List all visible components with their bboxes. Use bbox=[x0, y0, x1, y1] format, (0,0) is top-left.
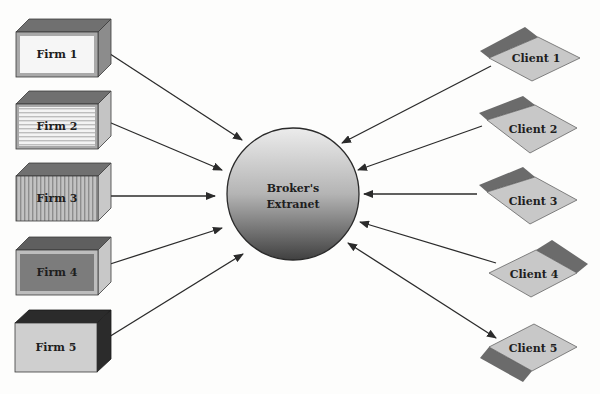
firm-3-label: Firm 3 bbox=[37, 192, 78, 205]
connector-firm-2 bbox=[104, 120, 222, 170]
client-3-diamond[interactable]: Client 3 bbox=[479, 167, 577, 224]
client-4-label: Client 4 bbox=[510, 268, 559, 281]
box-top bbox=[16, 19, 111, 32]
hub-label-line2: Extranet bbox=[266, 198, 320, 211]
client-3-label: Client 3 bbox=[509, 195, 558, 208]
firm-2-box[interactable]: Firm 2 bbox=[16, 91, 111, 149]
connector-firm-4 bbox=[104, 228, 222, 266]
client-1-label: Client 1 bbox=[512, 52, 561, 65]
firm-4-box[interactable]: Firm 4 bbox=[16, 237, 111, 295]
connector-firm-1 bbox=[104, 50, 242, 140]
client-4-diamond[interactable]: Client 4 bbox=[489, 240, 588, 297]
firm-1-box[interactable]: Firm 1 bbox=[16, 19, 111, 77]
box-top bbox=[16, 163, 111, 176]
connector-firm-5 bbox=[104, 254, 243, 340]
box-top bbox=[15, 310, 111, 323]
client-2-label: Client 2 bbox=[509, 123, 558, 136]
firm-3-box[interactable]: Firm 3 bbox=[16, 163, 111, 221]
connector-client-5 bbox=[348, 243, 496, 338]
firm-2-label: Firm 2 bbox=[37, 120, 78, 133]
firm-5-label: Firm 5 bbox=[36, 341, 77, 354]
box-top bbox=[16, 237, 111, 250]
hub-brokers-extranet[interactable]: Broker's Extranet bbox=[227, 128, 359, 260]
firm-4-label: Firm 4 bbox=[37, 266, 78, 279]
box-top bbox=[16, 91, 111, 104]
connector-client-4 bbox=[360, 222, 496, 263]
connector-client-1 bbox=[342, 66, 491, 143]
client-5-label: Client 5 bbox=[509, 342, 558, 355]
hub-label-line1: Broker's bbox=[267, 182, 319, 195]
firm-5-box[interactable]: Firm 5 bbox=[15, 310, 111, 372]
connector-client-2 bbox=[358, 126, 482, 170]
client-1-diamond[interactable]: Client 1 bbox=[480, 27, 580, 81]
client-5-diamond[interactable]: Client 5 bbox=[480, 324, 577, 382]
firm-1-label: Firm 1 bbox=[37, 48, 78, 61]
extranet-diagram: Broker's Extranet Firm 1 Firm 2 Firm 3 F… bbox=[0, 0, 600, 394]
client-2-diamond[interactable]: Client 2 bbox=[479, 96, 577, 153]
